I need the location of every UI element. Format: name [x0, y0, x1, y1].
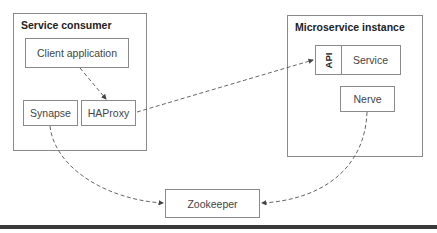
- api-endpoint: API: [316, 46, 342, 74]
- zookeeper-node: Zookeeper: [165, 189, 260, 218]
- microservice-instance-title: Microservice instance: [295, 21, 405, 33]
- synapse-label: Synapse: [24, 101, 77, 125]
- nerve-node: Nerve: [340, 86, 395, 112]
- service-node: API Service: [315, 45, 401, 75]
- api-label: API: [323, 52, 334, 68]
- client-application-node: Client application: [25, 38, 129, 68]
- service-label: Service: [341, 46, 400, 74]
- client-application-label: Client application: [26, 39, 128, 67]
- nerve-label: Nerve: [341, 87, 394, 111]
- haproxy-node: HAProxy: [81, 100, 136, 126]
- bottom-divider: [0, 225, 437, 229]
- synapse-node: Synapse: [23, 100, 78, 126]
- zookeeper-label: Zookeeper: [166, 190, 259, 217]
- service-consumer-container: Service consumer: [13, 13, 147, 151]
- service-consumer-title: Service consumer: [21, 19, 111, 31]
- haproxy-label: HAProxy: [82, 101, 135, 125]
